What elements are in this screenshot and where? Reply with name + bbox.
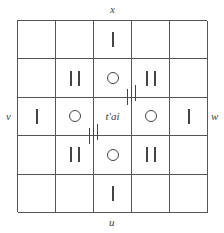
cell-2-3: [132, 98, 170, 136]
double-bar-icon: [154, 147, 156, 162]
double-bar-icon: [146, 147, 148, 162]
tick-mark-icon: [97, 124, 98, 140]
label-left-v: v: [6, 111, 11, 122]
label-bottom-u: u: [109, 217, 115, 228]
tick-mark-icon: [93, 126, 94, 142]
single-bar-icon: [188, 109, 190, 124]
double-bar-icon: [78, 71, 80, 86]
cell-3-0: [18, 136, 56, 174]
double-bar-icon: [78, 147, 80, 162]
cell-0-0: [18, 21, 56, 59]
double-bar-icon: [70, 147, 72, 162]
label-right-w: w: [211, 111, 218, 122]
cell-4-2: [94, 175, 132, 213]
tick-mark-icon: [89, 128, 90, 144]
double-bar-icon: [70, 71, 72, 86]
cell-1-1: [56, 59, 94, 97]
cell-3-3: [132, 136, 170, 174]
circle-icon: [107, 149, 119, 161]
cell-0-3: [132, 21, 170, 59]
cell-3-4: [170, 136, 208, 174]
cell-3-2: [94, 136, 132, 174]
circle-icon: [145, 110, 157, 122]
tick-mark-icon: [135, 85, 136, 101]
magic-square-grid: t'ai: [17, 20, 207, 212]
single-bar-icon: [112, 32, 114, 47]
cell-4-3: [132, 175, 170, 213]
cell-0-1: [56, 21, 94, 59]
cell-1-4: [170, 59, 208, 97]
tick-mark-icon: [131, 87, 132, 103]
cell-1-3: [132, 59, 170, 97]
cell-0-4: [170, 21, 208, 59]
cell-4-4: [170, 175, 208, 213]
tick-mark-icon: [127, 89, 128, 105]
label-top-x: x: [110, 4, 115, 15]
double-bar-icon: [154, 71, 156, 86]
cell-0-2: [94, 21, 132, 59]
center-text: t'ai: [94, 110, 131, 122]
cell-4-0: [18, 175, 56, 213]
single-bar-icon: [112, 186, 114, 201]
circle-icon: [107, 72, 119, 84]
double-bar-icon: [146, 71, 148, 86]
cell-1-0: [18, 59, 56, 97]
cell-2-0: [18, 98, 56, 136]
cell-2-4: [170, 98, 208, 136]
single-bar-icon: [36, 109, 38, 124]
circle-icon: [69, 110, 81, 122]
cell-4-1: [56, 175, 94, 213]
